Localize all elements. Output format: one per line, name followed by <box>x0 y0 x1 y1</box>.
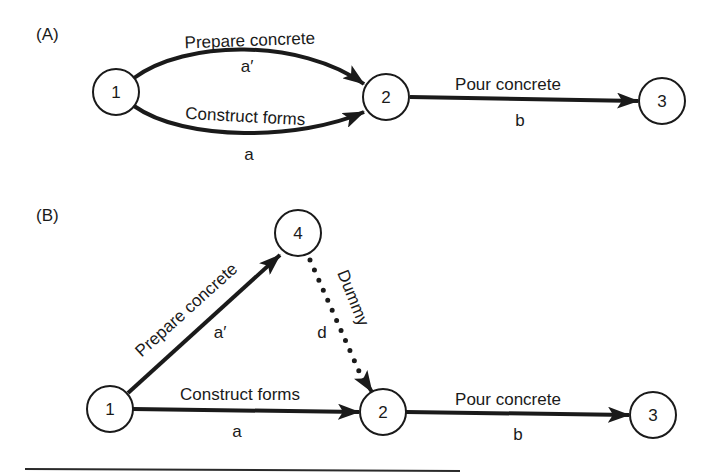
edge-b-construct-forms <box>133 409 359 412</box>
edge-a-pour-concrete <box>410 97 638 101</box>
edge-b-prepare-concrete <box>128 255 280 393</box>
node-a-2: 2 <box>363 74 409 120</box>
node-b-2-label: 2 <box>378 403 387 422</box>
node-a-2-label: 2 <box>381 88 390 107</box>
panel-b: (B) Prepare concrete a′ Dummy d Construc… <box>36 206 676 444</box>
symbol-b-dummy: d <box>317 323 326 342</box>
node-a-1: 1 <box>93 69 139 115</box>
symbol-a-construct-forms: a <box>244 145 254 164</box>
node-a-3-label: 3 <box>657 92 666 111</box>
panel-a-label: (A) <box>36 25 59 44</box>
symbol-a-pour-concrete: b <box>515 111 524 130</box>
symbol-b-prepare-concrete: a′ <box>214 323 227 342</box>
label-b-prepare-concrete: Prepare concrete <box>132 259 242 360</box>
node-b-2: 2 <box>360 389 406 435</box>
label-a-construct-forms: Construct forms <box>185 104 306 129</box>
panel-a: (A) Prepare concrete a′ Construct forms … <box>36 25 685 164</box>
edge-b-pour-concrete <box>406 412 629 415</box>
node-b-1-label: 1 <box>105 400 114 419</box>
symbol-a-prepare-concrete: a′ <box>241 57 254 76</box>
network-diagram: (A) Prepare concrete a′ Construct forms … <box>0 0 713 475</box>
symbol-b-pour-concrete: b <box>513 425 522 444</box>
bottom-rule <box>25 469 460 471</box>
label-b-dummy: Dummy <box>333 267 373 329</box>
node-b-3-label: 3 <box>648 406 657 425</box>
node-b-4-label: 4 <box>293 224 302 243</box>
node-b-3: 3 <box>630 392 676 438</box>
label-a-prepare-concrete: Prepare concrete <box>184 29 315 53</box>
node-a-3: 3 <box>639 78 685 124</box>
label-b-pour-concrete: Pour concrete <box>455 390 561 409</box>
node-b-4: 4 <box>275 210 321 256</box>
panel-b-label: (B) <box>36 206 59 225</box>
node-a-1-label: 1 <box>111 83 120 102</box>
edge-b-dummy-arrowhead <box>363 378 372 392</box>
node-b-1: 1 <box>87 386 133 432</box>
label-a-pour-concrete: Pour concrete <box>455 75 561 94</box>
label-b-construct-forms: Construct forms <box>180 385 300 404</box>
symbol-b-construct-forms: a <box>232 422 242 441</box>
